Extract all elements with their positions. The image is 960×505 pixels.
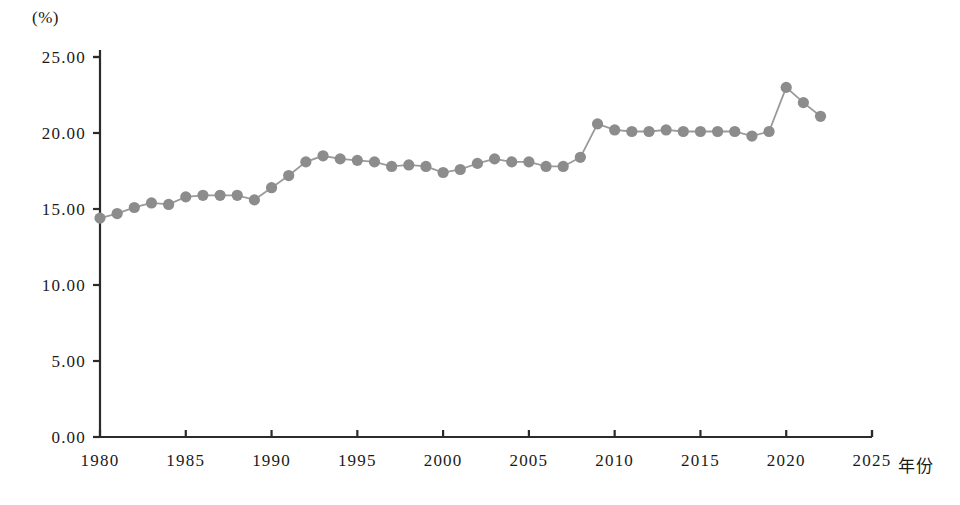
data-point-marker: [798, 97, 809, 108]
data-point-marker: [815, 111, 826, 122]
data-point-marker: [558, 161, 569, 172]
x-axis-tick-label: 2015: [681, 451, 720, 470]
data-point-marker: [746, 130, 757, 141]
data-point-marker: [763, 126, 774, 137]
x-axis-tick-label: 2000: [424, 451, 463, 470]
data-point-marker: [352, 155, 363, 166]
data-point-marker: [489, 153, 500, 164]
data-point-marker: [626, 126, 637, 137]
data-point-marker: [266, 182, 277, 193]
line-chart: (%) 年份 0.005.0010.0015.0020.0025.00 1980…: [0, 0, 960, 505]
data-point-marker: [283, 170, 294, 181]
data-point-marker: [112, 208, 123, 219]
data-point-marker: [695, 126, 706, 137]
series-line-path: [100, 87, 821, 218]
data-point-marker: [712, 126, 723, 137]
y-axis-tick-label: 0.00: [51, 428, 86, 447]
series-marker-group: [94, 82, 826, 224]
data-point-marker: [386, 161, 397, 172]
x-axis-tick-label: 1990: [252, 451, 291, 470]
data-point-marker: [592, 118, 603, 129]
y-axis-tick-group: 0.005.0010.0015.0020.0025.00: [42, 48, 100, 447]
data-point-marker: [214, 190, 225, 201]
data-point-marker: [643, 126, 654, 137]
data-point-marker: [540, 161, 551, 172]
data-point-marker: [129, 202, 140, 213]
data-point-marker: [472, 158, 483, 169]
data-point-marker: [678, 126, 689, 137]
data-point-marker: [455, 164, 466, 175]
data-point-marker: [420, 161, 431, 172]
data-point-marker: [317, 150, 328, 161]
data-point-marker: [335, 153, 346, 164]
data-point-marker: [180, 191, 191, 202]
data-point-marker: [249, 194, 260, 205]
x-axis-tick-label: 1985: [166, 451, 205, 470]
y-axis-tick-label: 15.00: [42, 200, 86, 219]
data-point-marker: [94, 213, 105, 224]
data-point-marker: [163, 199, 174, 210]
data-point-marker: [438, 167, 449, 178]
data-point-marker: [661, 124, 672, 135]
x-axis-tick-label: 1995: [338, 451, 377, 470]
y-axis-tick-label: 25.00: [42, 48, 86, 67]
data-point-marker: [523, 156, 534, 167]
data-point-marker: [781, 82, 792, 93]
data-point-marker: [146, 197, 157, 208]
x-axis-tick-label: 2025: [853, 451, 892, 470]
x-axis-tick-label: 2020: [767, 451, 806, 470]
y-axis-tick-label: 10.00: [42, 276, 86, 295]
x-axis-tick-label: 2010: [595, 451, 634, 470]
data-point-marker: [729, 126, 740, 137]
y-axis-tick-label: 20.00: [42, 124, 86, 143]
x-axis-tick-label: 1980: [81, 451, 120, 470]
data-point-marker: [300, 156, 311, 167]
y-axis-tick-label: 5.00: [51, 352, 86, 371]
data-point-marker: [197, 190, 208, 201]
data-point-marker: [575, 152, 586, 163]
data-point-marker: [403, 159, 414, 170]
data-point-marker: [232, 190, 243, 201]
x-axis-tick-label: 2005: [509, 451, 548, 470]
chart-canvas: 0.005.0010.0015.0020.0025.00 19801985199…: [0, 0, 960, 505]
data-point-marker: [369, 156, 380, 167]
data-point-marker: [506, 156, 517, 167]
data-point-marker: [609, 124, 620, 135]
